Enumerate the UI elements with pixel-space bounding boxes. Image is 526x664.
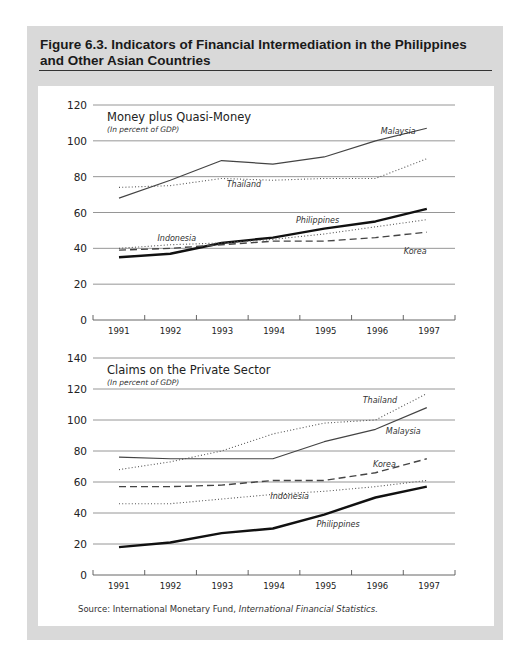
series-label: Malaysia [386, 427, 421, 436]
x-tick-label: 1991 [108, 581, 130, 591]
y-tick-label: 20 [74, 278, 87, 290]
x-tick-label: 1994 [263, 326, 285, 336]
series-label: Korea [373, 460, 396, 469]
y-tick-label: 40 [74, 507, 87, 519]
chart-1: 0204060801001201991199219931994199519961… [67, 99, 455, 336]
chart-subtitle: (In percent of GDP) [107, 125, 179, 134]
y-tick-label: 140 [67, 352, 87, 364]
y-tick-label: 60 [74, 207, 87, 219]
series-label: Malaysia [381, 127, 416, 136]
x-tick-label: 1992 [160, 581, 182, 591]
y-tick-label: 40 [74, 242, 87, 254]
series-label: Philippines [296, 216, 339, 225]
y-tick-label: 20 [74, 538, 87, 550]
y-tick-label: 100 [67, 135, 87, 147]
y-tick-label: 120 [67, 383, 87, 395]
x-tick-label: 1992 [160, 326, 182, 336]
x-tick-label: 1997 [418, 581, 440, 591]
charts-canvas: 0204060801001201991199219931994199519961… [0, 0, 526, 664]
series-label: Thailand [227, 180, 262, 189]
series-malaysia [119, 128, 427, 198]
x-tick-label: 1993 [211, 581, 233, 591]
source-label: Source: International Monetary Fund, [78, 604, 239, 614]
x-tick-label: 1994 [263, 581, 285, 591]
chart-2: 0204060801001201401991199219931994199519… [67, 352, 455, 591]
y-tick-label: 60 [74, 476, 87, 488]
x-tick-label: 1995 [315, 326, 337, 336]
series-label: Korea [404, 247, 427, 256]
series-philippines [119, 209, 427, 257]
y-tick-label: 120 [67, 99, 87, 111]
series-label: Thailand [363, 396, 398, 405]
x-tick-label: 1993 [211, 326, 233, 336]
chart-title: Money plus Quasi-Money [107, 110, 251, 124]
y-tick-label: 0 [80, 314, 87, 326]
x-tick-label: 1996 [367, 581, 389, 591]
series-label: Indonesia [157, 234, 196, 243]
x-tick-label: 1997 [418, 326, 440, 336]
x-tick-label: 1991 [108, 326, 130, 336]
y-tick-label: 80 [74, 445, 87, 457]
series-label: Philippines [317, 520, 360, 529]
source-publication: International Financial Statistics. [239, 604, 378, 614]
source-note: Source: International Monetary Fund, Int… [78, 604, 378, 614]
x-tick-label: 1996 [367, 326, 389, 336]
y-tick-label: 0 [80, 569, 87, 581]
series-thailand [119, 159, 427, 188]
y-tick-label: 100 [67, 414, 87, 426]
series-label: Indonesia [270, 492, 309, 501]
x-tick-label: 1995 [315, 581, 337, 591]
chart-title: Claims on the Private Sector [107, 363, 271, 377]
chart-subtitle: (In percent of GDP) [107, 378, 179, 387]
y-tick-label: 80 [74, 171, 87, 183]
